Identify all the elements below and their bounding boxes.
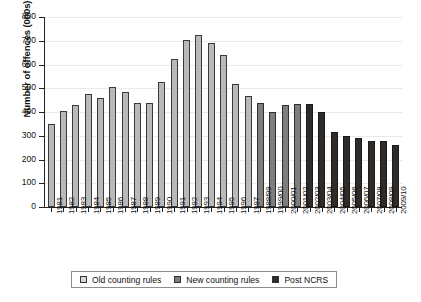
legend-swatch-icon bbox=[80, 276, 87, 283]
bar bbox=[146, 103, 153, 207]
x-axis-tick-label: 1992 bbox=[190, 197, 199, 214]
y-axis-tick-label: 200 bbox=[22, 154, 36, 164]
x-axis-tick-label: 1987 bbox=[129, 197, 138, 214]
y-axis-tick: 500 bbox=[39, 88, 44, 89]
y-axis-tick: 800 bbox=[39, 17, 44, 18]
x-axis-tick-label: 1986 bbox=[116, 197, 125, 214]
legend-item-old: Old counting rules bbox=[80, 275, 161, 285]
bar bbox=[134, 103, 141, 207]
x-axis-tick bbox=[51, 208, 52, 212]
bar bbox=[122, 92, 129, 207]
x-axis-tick-label: 1993 bbox=[202, 197, 211, 214]
y-axis-tick: 700 bbox=[39, 41, 44, 42]
x-axis-tick-label: 1999/00 bbox=[276, 186, 285, 214]
legend-item-new: New counting rules bbox=[174, 275, 259, 285]
x-axis-tick-label: 1985 bbox=[104, 197, 113, 214]
y-axis-tick-label: 600 bbox=[22, 59, 36, 69]
y-axis-tick: 600 bbox=[39, 65, 44, 66]
legend-label: Old counting rules bbox=[92, 275, 161, 285]
x-axis-tick bbox=[125, 208, 126, 212]
x-axis-tick-label: 1983 bbox=[79, 197, 88, 214]
x-axis-tick-label: 1984 bbox=[92, 197, 101, 214]
x-axis-tick-label: 1982 bbox=[67, 197, 76, 214]
chart-legend: Old counting rulesNew counting rulesPost… bbox=[71, 271, 337, 288]
x-axis-tick bbox=[174, 208, 175, 212]
x-axis-tick-label: 2005/06 bbox=[350, 186, 359, 214]
bar bbox=[72, 105, 79, 207]
bar bbox=[183, 40, 190, 207]
y-axis-tick: 100 bbox=[39, 183, 44, 184]
bar bbox=[48, 124, 55, 207]
x-axis-tick-label: 2001/02 bbox=[301, 186, 310, 214]
y-axis-tick: 0 bbox=[39, 207, 44, 208]
y-axis-tick-label: 700 bbox=[22, 35, 36, 45]
y-axis-tick: 200 bbox=[39, 160, 44, 161]
x-axis-tick bbox=[162, 208, 163, 212]
x-axis-tick-label: 2008/09 bbox=[387, 186, 396, 214]
legend-label: New counting rules bbox=[186, 275, 259, 285]
bar-chart: Number of offences (000s) 80070060050040… bbox=[0, 0, 421, 302]
plot-area: 8007006005004003002001000 19811982198319… bbox=[44, 17, 402, 207]
x-axis-tick bbox=[359, 208, 360, 212]
x-axis-tick-label: 1981 bbox=[55, 197, 64, 214]
x-axis-tick-label: 2009/10 bbox=[399, 186, 408, 214]
x-axis-tick-label: 1989 bbox=[153, 197, 162, 214]
bar-series bbox=[45, 17, 402, 207]
bar bbox=[97, 98, 104, 207]
x-axis-tick bbox=[371, 208, 372, 212]
legend-item-ncrs: Post NCRS bbox=[272, 275, 328, 285]
y-axis-tick-label: 300 bbox=[22, 130, 36, 140]
bar bbox=[245, 96, 252, 207]
x-axis-tick-label: 1991 bbox=[178, 197, 187, 214]
x-axis-tick-label: 2002/03 bbox=[313, 186, 322, 214]
y-axis-tick-label: 0 bbox=[31, 201, 36, 211]
bar bbox=[60, 111, 67, 207]
x-axis-tick-label: 1988/99 bbox=[264, 186, 273, 214]
bar bbox=[109, 87, 116, 207]
x-axis-tick-label: 1997 bbox=[252, 197, 261, 214]
y-axis-tick: 300 bbox=[39, 136, 44, 137]
bar bbox=[257, 103, 264, 208]
bar bbox=[220, 55, 227, 207]
x-axis-tick-label: 1990 bbox=[165, 197, 174, 214]
x-axis-tick bbox=[199, 208, 200, 212]
x-axis-tick-label: 1988 bbox=[141, 197, 150, 214]
bar bbox=[171, 59, 178, 207]
y-axis-tick-label: 500 bbox=[22, 82, 36, 92]
x-axis-tick bbox=[211, 208, 212, 212]
x-axis-tick bbox=[322, 208, 323, 212]
x-axis-tick-label: 1994 bbox=[215, 197, 224, 214]
bar bbox=[195, 35, 202, 207]
x-axis-tick-label: 2000/01 bbox=[289, 186, 298, 214]
legend-swatch-icon bbox=[272, 276, 279, 283]
y-axis-tick-label: 800 bbox=[22, 11, 36, 21]
bar bbox=[85, 94, 92, 207]
x-axis-tick-label: 2003/04 bbox=[325, 186, 334, 214]
y-axis-tick-label: 400 bbox=[22, 106, 36, 116]
x-axis-tick-label: 2006/07 bbox=[362, 186, 371, 214]
y-axis-tick-label: 100 bbox=[22, 177, 36, 187]
x-axis-tick-label: 2004/05 bbox=[338, 186, 347, 214]
bar bbox=[158, 82, 165, 207]
x-axis-tick-label: 2007/08 bbox=[375, 186, 384, 214]
x-axis-tick-label: 1996 bbox=[239, 197, 248, 214]
x-axis-tick bbox=[248, 208, 249, 212]
bar bbox=[208, 43, 215, 207]
legend-label: Post NCRS bbox=[284, 275, 328, 285]
x-axis-tick bbox=[334, 208, 335, 212]
bar bbox=[232, 84, 239, 207]
legend-swatch-icon bbox=[174, 276, 181, 283]
y-axis-tick: 400 bbox=[39, 112, 44, 113]
x-axis-tick-label: 1995 bbox=[227, 197, 236, 214]
x-axis-tick bbox=[285, 208, 286, 212]
x-axis-tick bbox=[88, 208, 89, 212]
